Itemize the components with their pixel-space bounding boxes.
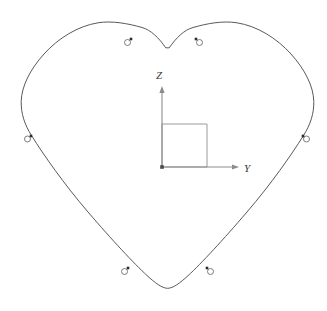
heart-cross-section-curve: [21, 22, 314, 288]
node-right-mid-dot: [302, 135, 305, 138]
node-left-mid-dot: [30, 135, 33, 138]
curve-node-markers: [25, 38, 310, 275]
node-bottom-left-ring: [122, 269, 128, 275]
node-left-mid-ring: [25, 136, 31, 142]
node-top-right-dot: [195, 38, 198, 41]
node-top-left-ring: [125, 40, 131, 46]
z-axis: Z: [156, 69, 165, 167]
node-top-left-dot: [130, 38, 133, 41]
node-right-mid-ring: [304, 136, 310, 142]
y-axis-arrowhead: [232, 164, 239, 169]
node-bottom-right-ring: [208, 269, 214, 275]
z-axis-label: Z: [156, 69, 163, 81]
node-bottom-right-dot: [206, 267, 209, 270]
node-bottom-left-dot: [127, 267, 130, 270]
z-axis-arrowhead: [159, 86, 164, 93]
unit-cell-square: [162, 124, 207, 167]
cross-section-figure: Z Y: [0, 0, 327, 311]
origin-dot: [160, 165, 164, 169]
figure-canvas: Z Y: [0, 0, 327, 311]
y-axis-label: Y: [244, 162, 252, 174]
unit-cell-square-edges: [162, 124, 207, 167]
node-top-right-ring: [197, 40, 203, 46]
